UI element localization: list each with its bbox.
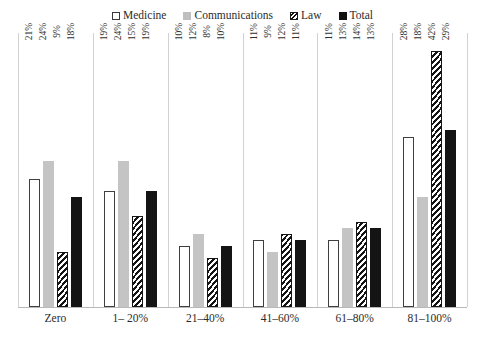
bar-rect-communications[interactable]: 9% xyxy=(267,252,278,307)
bar-value-label: 24% xyxy=(114,22,124,39)
x-axis-category-label: Zero xyxy=(18,312,93,324)
legend-label-communications: Communications xyxy=(194,10,273,22)
bar-communications[interactable]: 24% xyxy=(118,33,129,307)
bar-rect-total[interactable]: 29% xyxy=(445,130,456,307)
bar-group: 11%13%14%13% xyxy=(317,33,392,307)
bar-rect-medicine[interactable]: 11% xyxy=(328,240,339,307)
bar-communications[interactable]: 13% xyxy=(342,33,353,307)
bar-value-label: 15% xyxy=(128,22,138,39)
bar-value-label: 24% xyxy=(39,22,49,39)
bar-value-label: 11% xyxy=(249,22,259,39)
bar-value-label: 11% xyxy=(291,22,301,39)
bar-rect-total[interactable]: 19% xyxy=(146,191,157,307)
bar-rect-law[interactable]: 8% xyxy=(207,258,218,307)
bar-rect-communications[interactable]: 12% xyxy=(193,234,204,307)
bar-value-label: 14% xyxy=(352,22,362,39)
bar-group: 28%18%42%29% xyxy=(392,33,467,307)
bar-rect-law[interactable]: 12% xyxy=(281,234,292,307)
bar-total[interactable]: 13% xyxy=(370,33,381,307)
bar-group-bars: 11%9%12%11% xyxy=(243,33,318,307)
bar-total[interactable]: 29% xyxy=(445,33,456,307)
bar-communications[interactable]: 9% xyxy=(267,33,278,307)
bar-value-label: 13% xyxy=(366,22,376,39)
bar-value-label: 8% xyxy=(203,25,213,38)
bar-total[interactable]: 19% xyxy=(146,33,157,307)
bar-group-bars: 28%18%42%29% xyxy=(392,33,467,307)
bar-rect-law[interactable]: 42% xyxy=(431,51,442,307)
chart-plot-area: 21%24%9%18%19%24%15%19%10%12%8%10%11%9%1… xyxy=(18,33,467,307)
legend-item-total: Total xyxy=(339,10,373,22)
bar-value-label: 10% xyxy=(175,22,185,39)
bar-value-label: 11% xyxy=(324,22,334,39)
bar-law[interactable]: 42% xyxy=(431,33,442,307)
x-axis-line xyxy=(18,307,467,308)
bar-medicine[interactable]: 10% xyxy=(179,33,190,307)
bar-group: 10%12%8%10% xyxy=(168,33,243,307)
bar-value-label: 19% xyxy=(100,22,110,39)
bar-law[interactable]: 9% xyxy=(57,33,68,307)
legend-swatch-total-icon xyxy=(339,12,347,20)
bar-medicine[interactable]: 28% xyxy=(403,33,414,307)
bar-rect-medicine[interactable]: 10% xyxy=(179,246,190,307)
bar-rect-total[interactable]: 13% xyxy=(370,228,381,307)
bar-total[interactable]: 11% xyxy=(295,33,306,307)
legend-item-communications: Communications xyxy=(183,10,273,22)
x-axis-category-label: 41–60% xyxy=(243,312,318,324)
bar-law[interactable]: 14% xyxy=(356,33,367,307)
bar-medicine[interactable]: 11% xyxy=(253,33,264,307)
bar-group-bars: 21%24%9%18% xyxy=(18,33,93,307)
bar-law[interactable]: 8% xyxy=(207,33,218,307)
bar-rect-communications[interactable]: 24% xyxy=(43,161,54,307)
bar-rect-total[interactable]: 11% xyxy=(295,240,306,307)
bar-communications[interactable]: 12% xyxy=(193,33,204,307)
bar-group-bars: 19%24%15%19% xyxy=(93,33,168,307)
legend-label-law: Law xyxy=(301,10,321,22)
legend-item-medicine: Medicine xyxy=(112,10,166,22)
legend-swatch-communications-icon xyxy=(183,12,191,20)
bar-value-label: 28% xyxy=(399,22,409,39)
bar-law[interactable]: 12% xyxy=(281,33,292,307)
bar-rect-communications[interactable]: 13% xyxy=(342,228,353,307)
legend-item-law: Law xyxy=(290,10,321,22)
bar-value-label: 12% xyxy=(277,22,287,39)
bar-medicine[interactable]: 19% xyxy=(104,33,115,307)
bar-law[interactable]: 15% xyxy=(132,33,143,307)
bar-value-label: 9% xyxy=(263,25,273,38)
legend-swatch-medicine-icon xyxy=(112,12,120,20)
x-axis-category-label: 81–100% xyxy=(392,312,467,324)
x-axis-category-label: 21–40% xyxy=(168,312,243,324)
bar-total[interactable]: 10% xyxy=(221,33,232,307)
bar-group: 19%24%15%19% xyxy=(93,33,168,307)
bar-rect-communications[interactable]: 18% xyxy=(417,197,428,307)
legend-label-total: Total xyxy=(350,10,373,22)
bar-rect-medicine[interactable]: 21% xyxy=(29,179,40,307)
bar-rect-communications[interactable]: 24% xyxy=(118,161,129,307)
bar-group-bars: 10%12%8%10% xyxy=(168,33,243,307)
bar-rect-law[interactable]: 14% xyxy=(356,222,367,307)
bar-rect-total[interactable]: 10% xyxy=(221,246,232,307)
bar-rect-law[interactable]: 9% xyxy=(57,252,68,307)
bar-communications[interactable]: 18% xyxy=(417,33,428,307)
bar-rect-medicine[interactable]: 19% xyxy=(104,191,115,307)
gridline-vertical xyxy=(467,33,468,307)
bar-total[interactable]: 18% xyxy=(71,33,82,307)
bar-rect-law[interactable]: 15% xyxy=(132,216,143,307)
bar-value-label: 19% xyxy=(142,22,152,39)
bar-group: 11%9%12%11% xyxy=(243,33,318,307)
bar-value-label: 18% xyxy=(413,22,423,39)
bar-rect-medicine[interactable]: 11% xyxy=(253,240,264,307)
bar-medicine[interactable]: 21% xyxy=(29,33,40,307)
chart-legend: Medicine Communications Law Total xyxy=(0,10,485,22)
bar-value-label: 13% xyxy=(338,22,348,39)
bar-rect-total[interactable]: 18% xyxy=(71,197,82,307)
bar-value-label: 9% xyxy=(53,25,63,38)
x-axis-category-label: 61–80% xyxy=(317,312,392,324)
bar-rect-medicine[interactable]: 28% xyxy=(403,137,414,307)
bar-medicine[interactable]: 11% xyxy=(328,33,339,307)
bar-value-label: 29% xyxy=(441,22,451,39)
bar-communications[interactable]: 24% xyxy=(43,33,54,307)
legend-label-medicine: Medicine xyxy=(123,10,166,22)
bar-group: 21%24%9%18% xyxy=(18,33,93,307)
bar-value-label: 10% xyxy=(217,22,227,39)
bar-group-bars: 11%13%14%13% xyxy=(317,33,392,307)
